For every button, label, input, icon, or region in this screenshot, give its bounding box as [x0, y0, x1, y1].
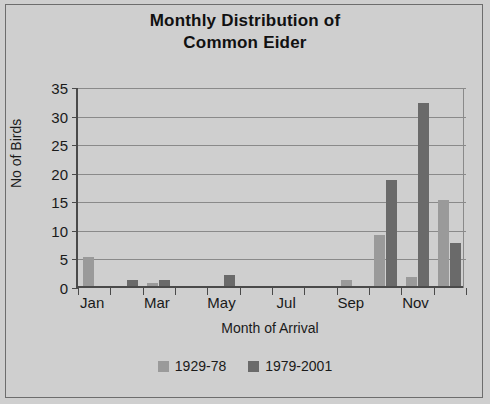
bar	[224, 275, 235, 286]
legend-swatch-icon	[158, 361, 169, 372]
y-axis-title: No of Birds	[8, 119, 24, 188]
x-axis-label: Jan	[80, 294, 104, 311]
chart-title: Monthly Distribution of Common Eider	[0, 10, 490, 54]
bar	[127, 280, 138, 286]
bar	[374, 235, 385, 286]
bar	[159, 280, 170, 286]
plot-wrapper: 05101520253035 JanMarMayJulSepNov Month …	[76, 88, 464, 288]
bar	[418, 103, 429, 286]
x-axis-tick	[466, 288, 467, 295]
bar-group	[369, 86, 401, 286]
bar	[147, 283, 158, 286]
bar	[438, 200, 449, 286]
bar-group	[272, 86, 304, 286]
bar-group	[434, 86, 466, 286]
y-axis-label: 15	[32, 194, 68, 211]
bar-group	[401, 86, 433, 286]
bar-group	[78, 86, 110, 286]
bar-group	[304, 86, 336, 286]
x-axis-label: May	[207, 294, 235, 311]
y-axis-label: 5	[32, 251, 68, 268]
bar	[386, 180, 397, 286]
x-axis-label: Nov	[402, 294, 429, 311]
legend-label: 1929-78	[175, 358, 226, 374]
y-axis-label: 35	[32, 80, 68, 97]
bar-series-container	[78, 86, 466, 286]
legend-label: 1979-2001	[265, 358, 332, 374]
y-axis-label: 30	[32, 108, 68, 125]
y-axis-label: 25	[32, 137, 68, 154]
chart-title-line-2: Common Eider	[0, 32, 490, 54]
x-axis-title: Month of Arrival	[76, 320, 464, 336]
bar	[341, 280, 352, 286]
bar	[450, 243, 461, 286]
legend-item: 1979-2001	[248, 358, 332, 374]
x-axis-labels: JanMarMayJulSepNov	[76, 294, 464, 316]
chart-root: Monthly Distribution of Common Eider No …	[0, 0, 490, 404]
x-axis-label: Jul	[277, 294, 296, 311]
bar	[406, 277, 417, 286]
y-axis-label: 20	[32, 165, 68, 182]
bar-group	[240, 86, 272, 286]
x-axis-label: Mar	[144, 294, 170, 311]
y-axis-label: 10	[32, 222, 68, 239]
bar-group	[143, 86, 175, 286]
y-axis-label: 0	[32, 280, 68, 297]
bar-group	[110, 86, 142, 286]
plot-area	[76, 88, 464, 288]
bar-group	[337, 86, 369, 286]
chart-legend: 1929-781979-2001	[0, 358, 490, 374]
bar	[83, 257, 94, 286]
legend-swatch-icon	[248, 361, 259, 372]
legend-item: 1929-78	[158, 358, 226, 374]
bar-group	[207, 86, 239, 286]
chart-title-line-1: Monthly Distribution of	[150, 11, 341, 30]
bar-group	[175, 86, 207, 286]
x-axis-label: Sep	[337, 294, 364, 311]
